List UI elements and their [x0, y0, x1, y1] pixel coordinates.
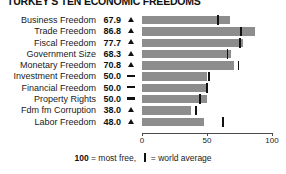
world-average-marker-icon [217, 15, 219, 25]
bar-track [142, 118, 272, 126]
bar-chart-rows: Business Freedom67.9Trade Freedom86.8Fis… [0, 15, 286, 128]
bar-row-value: 50.0 [97, 94, 121, 104]
bar-row: Monetary Freedom70.8 [0, 60, 286, 71]
bar-track [142, 95, 272, 103]
world-average-marker-icon [240, 27, 242, 37]
bar-fill [142, 27, 255, 35]
bar-row-value: 38.0 [97, 105, 121, 115]
trend-flat-icon [126, 94, 136, 104]
footnote-most-free-value: 100 [74, 153, 88, 163]
bar-row: Fiscal Freedom77.7 [0, 38, 286, 49]
world-average-marker-icon [195, 106, 197, 116]
bar-fill [142, 84, 207, 92]
bar-row-label: Financial Freedom [0, 83, 96, 93]
bar-row: Labor Freedom48.0 [0, 117, 286, 128]
bar-row-label: Fdm fm Corruption [0, 105, 96, 115]
bar-row: Trade Freedom86.8 [0, 26, 286, 37]
world-average-marker-icon [144, 153, 146, 162]
bar-row-value: 70.8 [97, 60, 121, 70]
bar-row: Business Freedom67.9 [0, 15, 286, 26]
bar-row-label: Property Rights [0, 94, 96, 104]
trend-up-icon [126, 15, 136, 25]
bar-row-value: 67.9 [97, 15, 121, 25]
bar-row-label: Fiscal Freedom [0, 38, 96, 48]
axis-tick-label: 50 [203, 136, 212, 146]
x-axis: 050100 [142, 133, 272, 147]
bar-row: Fdm fm Corruption38.0 [0, 105, 286, 116]
trend-up-icon [126, 117, 136, 127]
bar-track [142, 16, 272, 24]
axis-tick-label: 100 [265, 136, 278, 146]
trend-up-icon [126, 38, 136, 48]
bar-row: Investment Freedom50.0 [0, 71, 286, 82]
world-average-marker-icon [206, 83, 208, 93]
trend-up-icon [126, 60, 136, 70]
bar-row-label: Trade Freedom [0, 26, 96, 36]
bar-row-label: Monetary Freedom [0, 60, 96, 70]
bar-track [142, 39, 272, 47]
bar-track [142, 106, 272, 114]
trend-up-icon [126, 49, 136, 59]
world-average-marker-icon [227, 49, 229, 59]
trend-flat-icon [126, 83, 136, 93]
bar-fill [142, 95, 207, 103]
world-average-marker-icon [238, 61, 240, 71]
bar-fill [142, 61, 234, 69]
world-average-marker-icon [208, 72, 210, 82]
bar-track [142, 50, 272, 58]
bar-row-label: Business Freedom [0, 15, 96, 25]
bar-track [142, 84, 272, 92]
bar-fill [142, 106, 191, 114]
bar-row: Financial Freedom50.0 [0, 83, 286, 94]
bar-fill [142, 39, 243, 47]
footnote-most-free-text: = most free, [91, 153, 136, 163]
bar-row-label: Government Size [0, 49, 96, 59]
bar-row-value: 86.8 [97, 26, 121, 36]
bar-fill [142, 118, 204, 126]
world-average-marker-icon [199, 94, 201, 104]
trend-flat-icon [126, 71, 136, 81]
bar-row-value: 50.0 [97, 83, 121, 93]
footnote-average-text: = world average [151, 153, 212, 163]
page-title: TURKEY'S TEN ECONOMIC FREEDOMS [7, 0, 201, 7]
world-average-marker-icon [239, 38, 241, 48]
bar-row-label: Labor Freedom [0, 117, 96, 127]
bar-track [142, 72, 272, 80]
bar-row-label: Investment Freedom [0, 71, 96, 81]
trend-up-icon [126, 26, 136, 36]
bar-row-value: 77.7 [97, 38, 121, 48]
bar-row: Government Size68.3 [0, 49, 286, 60]
bar-fill [142, 50, 231, 58]
bar-row-value: 48.0 [97, 117, 121, 127]
bar-track [142, 27, 272, 35]
bar-track [142, 61, 272, 69]
bar-row-value: 68.3 [97, 49, 121, 59]
trend-up-icon [126, 105, 136, 115]
bar-row: Property Rights50.0 [0, 94, 286, 105]
world-average-marker-icon [222, 117, 224, 127]
bar-fill [142, 72, 207, 80]
bar-row-value: 50.0 [97, 71, 121, 81]
chart-footnote: 100 = most free, = world average [0, 152, 286, 164]
axis-tick-label: 0 [140, 136, 144, 146]
